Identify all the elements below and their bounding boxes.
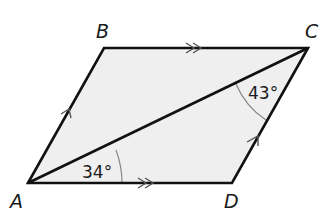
angle-label-a: 34°	[82, 162, 112, 182]
vertex-label-a: A	[8, 190, 23, 212]
parallelogram-diagram: A B C D 34° 43°	[0, 0, 319, 215]
vertex-label-d: D	[224, 190, 239, 212]
vertex-label-c: C	[305, 20, 319, 42]
angle-label-c: 43°	[248, 83, 278, 103]
vertex-label-b: B	[96, 20, 109, 42]
